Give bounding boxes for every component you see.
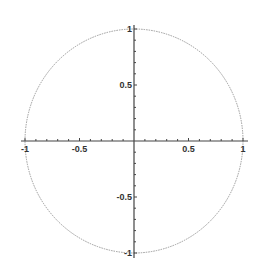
y-tick-label: 0.5 (119, 80, 132, 90)
x-tick-label: 0.5 (182, 144, 195, 154)
y-tick-label: -1 (124, 248, 132, 258)
unit-circle-chart: -1-0.50.5110.5-0.5-1 (0, 0, 257, 276)
x-tick-label: -0.5 (72, 144, 88, 154)
x-tick-label: 1 (240, 144, 245, 154)
y-tick-label: -0.5 (116, 192, 132, 202)
y-tick-label: 1 (127, 24, 132, 34)
axes-layer (21, 25, 248, 258)
x-tick-label: -1 (21, 144, 29, 154)
